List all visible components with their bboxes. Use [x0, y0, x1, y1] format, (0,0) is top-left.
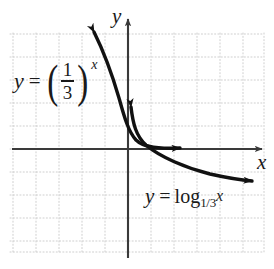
open-paren: (: [47, 65, 58, 98]
fraction-one-third: 1 3: [60, 60, 75, 102]
label-logarithm-base: 1/3: [200, 196, 216, 209]
label-exponential-equals: =: [29, 71, 41, 92]
math-graph-figure: y = ( 1 3 ) x y = log 1/3 x y x: [0, 0, 274, 269]
fraction-denominator: 3: [63, 82, 73, 102]
y-axis-label: y: [112, 6, 121, 27]
label-logarithm-argument: x: [216, 188, 223, 204]
x-axis-label: x: [257, 152, 266, 173]
close-paren: ): [77, 65, 88, 98]
graph-canvas: [0, 0, 274, 269]
label-exponential-function: y = ( 1 3 ) x: [14, 60, 97, 102]
label-logarithm-log: log: [175, 186, 201, 206]
label-logarithm-y: y: [145, 186, 154, 207]
label-exponential-exponent: x: [91, 58, 97, 72]
label-exponential-y: y: [14, 70, 24, 92]
curve-logarithm: [131, 107, 252, 181]
label-logarithm-equals: =: [159, 186, 170, 206]
label-exponential-parenthesized-fraction: ( 1 3 ): [45, 60, 91, 102]
label-logarithmic-function: y = log 1/3 x: [145, 186, 223, 207]
fraction-numerator: 1: [63, 60, 73, 80]
